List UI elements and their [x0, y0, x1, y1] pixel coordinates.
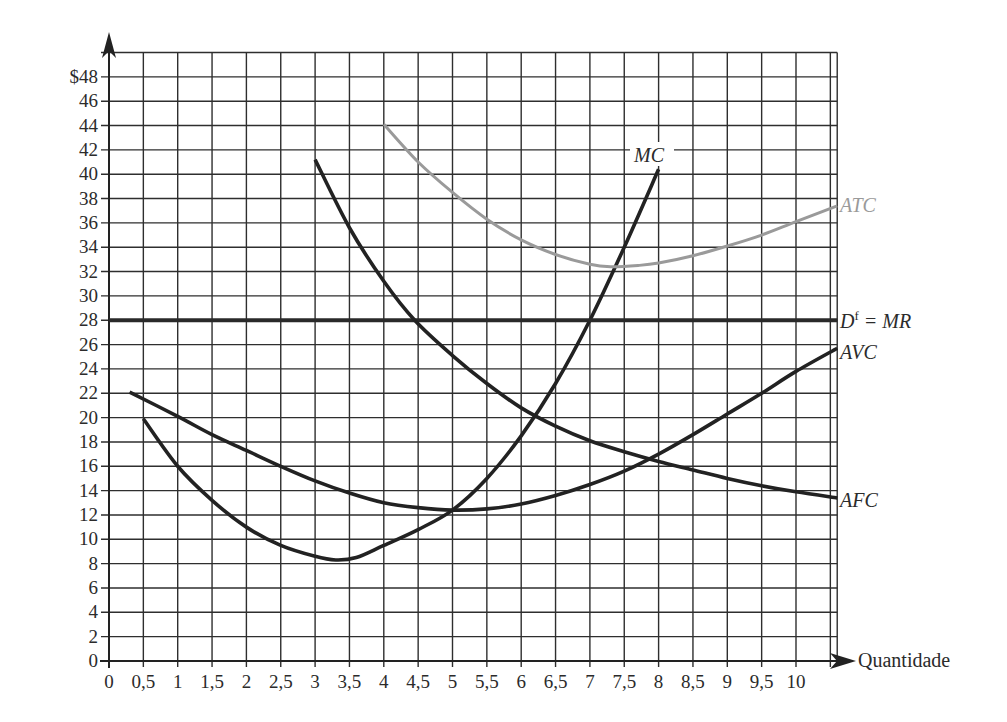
cost-curves-chart: 00,511,522,533,544,555,566,577,588,599,5…	[0, 0, 1007, 722]
axis-ticks: 00,511,522,533,544,555,566,577,588,599,5…	[70, 66, 806, 692]
y-tick-label: 22	[79, 382, 98, 403]
y-tick-label: 42	[79, 139, 98, 160]
x-tick-label: 0	[104, 671, 114, 692]
x-tick-label: 2	[242, 671, 252, 692]
y-tick-label: 20	[79, 407, 98, 428]
x-tick-label: 7,5	[612, 671, 636, 692]
y-tick-label: 40	[79, 163, 98, 184]
x-tick-label: 4,5	[406, 671, 430, 692]
x-tick-label: 1,5	[200, 671, 224, 692]
x-tick-label: 8	[654, 671, 664, 692]
mr-label-d: D	[839, 310, 855, 332]
y-tick-label: 6	[89, 577, 99, 598]
y-tick-label: 44	[79, 115, 99, 136]
afc-label: AFC	[838, 489, 878, 511]
y-tick-label: 16	[79, 455, 98, 476]
x-tick-label: 6	[516, 671, 526, 692]
y-tick-label: 28	[79, 309, 98, 330]
y-tick-label: 38	[79, 188, 98, 209]
x-axis-title: Quantidade	[858, 649, 950, 671]
y-tick-label: 46	[79, 90, 98, 111]
y-tick-label: 26	[79, 334, 98, 355]
y-tick-label: 32	[79, 261, 98, 282]
x-tick-label: 1	[173, 671, 183, 692]
x-tick-label: 8,5	[681, 671, 705, 692]
mc-curve	[143, 169, 658, 560]
y-tick-label: 0	[89, 650, 99, 671]
y-tick-label: 10	[79, 528, 98, 549]
curve-labels: MC ATC Df = MR AVC AFC Quantidade	[630, 142, 950, 671]
grid-lines	[101, 53, 837, 668]
y-tick-label: $48	[70, 66, 99, 87]
y-tick-label: 8	[89, 553, 99, 574]
mr-label: Df = MR	[839, 308, 911, 332]
y-tick-label: 30	[79, 285, 98, 306]
y-tick-label: 34	[79, 236, 99, 257]
avc-label: AVC	[838, 341, 877, 363]
x-tick-label: 5,5	[475, 671, 499, 692]
y-tick-label: 12	[79, 504, 98, 525]
afc-curve	[315, 160, 837, 498]
x-tick-label: 9	[723, 671, 733, 692]
x-tick-label: 2,5	[269, 671, 293, 692]
mr-label-rest: = MR	[859, 310, 911, 332]
y-tick-label: 36	[79, 212, 98, 233]
y-tick-label: 18	[79, 431, 98, 452]
atc-label: ATC	[838, 194, 877, 216]
y-tick-label: 14	[79, 480, 99, 501]
avc-curve	[130, 348, 838, 510]
y-tick-label: 2	[89, 626, 99, 647]
x-tick-label: 9,5	[750, 671, 774, 692]
y-tick-label: 24	[79, 358, 99, 379]
x-tick-label: 6,5	[544, 671, 568, 692]
axes	[100, 32, 856, 669]
x-tick-label: 10	[787, 671, 806, 692]
x-tick-label: 4	[379, 671, 389, 692]
x-tick-label: 5	[448, 671, 458, 692]
x-tick-label: 3	[310, 671, 320, 692]
x-tick-label: 7	[585, 671, 595, 692]
y-tick-label: 4	[89, 601, 99, 622]
x-tick-label: 0,5	[131, 671, 155, 692]
x-tick-label: 3,5	[338, 671, 362, 692]
mc-label: MC	[633, 144, 665, 166]
